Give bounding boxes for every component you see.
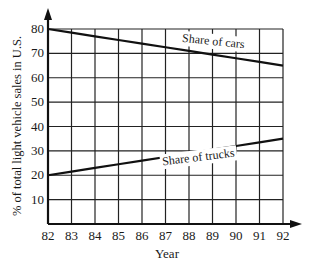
x-tick-label: 82 (37, 228, 59, 244)
grid (48, 29, 283, 224)
y-tick-label: 10 (22, 193, 44, 207)
x-tick-label: 84 (84, 228, 106, 244)
x-tick-label: 89 (202, 228, 224, 244)
x-tick-label: 87 (155, 228, 177, 244)
x-axis-arrow-icon (290, 220, 302, 228)
x-tick-label: 88 (178, 228, 200, 244)
x-tick-label: 90 (225, 228, 247, 244)
x-tick-label: 83 (61, 228, 83, 244)
y-tick-label: 50 (22, 95, 44, 109)
y-tick-label: 70 (22, 46, 44, 60)
x-axis-label: Year (155, 246, 179, 262)
x-tick-label: 91 (249, 228, 271, 244)
y-tick-label: 20 (22, 168, 44, 182)
axes (44, 8, 302, 228)
y-tick-label: 60 (22, 71, 44, 85)
x-tick-label: 92 (272, 228, 294, 244)
x-tick-label: 86 (131, 228, 153, 244)
y-tick-label: 40 (22, 120, 44, 134)
x-tick-label: 85 (108, 228, 130, 244)
y-axis-arrow-icon (44, 8, 52, 20)
y-tick-label: 80 (22, 22, 44, 36)
y-tick-label: 30 (22, 144, 44, 158)
